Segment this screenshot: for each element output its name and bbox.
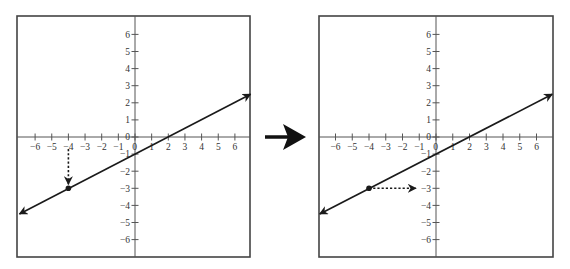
x-tick-label: 0 <box>433 142 438 152</box>
y-tick-label: 3 <box>426 81 431 91</box>
y-tick-label: −4 <box>421 201 431 211</box>
x-tick-label: −5 <box>347 142 357 152</box>
y-tick-label: 6 <box>426 30 431 40</box>
y-tick-label: 5 <box>125 47 130 57</box>
y-tick-label: −2 <box>120 167 130 177</box>
data-point <box>66 186 72 192</box>
figure: −6−5−4−3−2−11234560−6−5−4−3−2−10123456 −… <box>0 0 570 269</box>
y-tick-label: 2 <box>125 98 130 108</box>
y-tick-label: 4 <box>426 64 431 74</box>
x-tick-label: −6 <box>30 142 40 152</box>
x-tick-label: 3 <box>183 142 188 152</box>
y-tick-label: 0 <box>125 132 130 142</box>
y-tick-label: −5 <box>421 218 431 228</box>
y-tick-label: 3 <box>125 81 130 91</box>
y-tick-label: −2 <box>421 167 431 177</box>
x-tick-label: 2 <box>467 142 472 152</box>
x-tick-label: −3 <box>381 142 391 152</box>
right-graph-panel: −6−5−4−3−2−11234560−6−5−4−3−2−10123456 <box>319 16 553 257</box>
x-tick-label: 0 <box>132 142 137 152</box>
y-tick-label: 1 <box>426 115 431 125</box>
left-graph-panel: −6−5−4−3−2−11234560−6−5−4−3−2−10123456 <box>17 16 251 257</box>
y-tick-label: 2 <box>426 98 431 108</box>
y-tick-label: 4 <box>125 64 130 74</box>
x-tick-label: 2 <box>166 142 171 152</box>
x-tick-label: −3 <box>80 142 90 152</box>
y-tick-label: 6 <box>125 30 130 40</box>
y-tick-label: −4 <box>120 201 130 211</box>
x-tick-label: −2 <box>397 142 407 152</box>
x-tick-label: 6 <box>534 142 539 152</box>
x-tick-label: 6 <box>233 142 238 152</box>
y-tick-label: 1 <box>125 115 130 125</box>
y-tick-label: −5 <box>120 218 130 228</box>
x-tick-label: 5 <box>216 142 221 152</box>
y-tick-label: −3 <box>421 184 431 194</box>
x-tick-label: −5 <box>47 142 57 152</box>
x-tick-label: 4 <box>199 142 204 152</box>
x-tick-label: 5 <box>517 142 522 152</box>
x-tick-label: −6 <box>330 142 340 152</box>
x-tick-label: −4 <box>364 142 374 152</box>
y-tick-label: −6 <box>120 235 130 245</box>
x-tick-label: 4 <box>501 142 506 152</box>
y-tick-label: −3 <box>120 184 130 194</box>
y-tick-label: 0 <box>426 132 431 142</box>
y-tick-label: 5 <box>426 47 431 57</box>
right-arrow-icon <box>265 124 306 150</box>
y-tick-label: −6 <box>421 235 431 245</box>
x-tick-label: 3 <box>484 142 489 152</box>
x-tick-label: −2 <box>97 142 107 152</box>
data-point <box>366 186 372 192</box>
